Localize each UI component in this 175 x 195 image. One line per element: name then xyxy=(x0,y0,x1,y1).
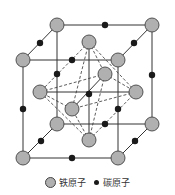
fcc-iron-carbon-unit-cell xyxy=(0,0,175,175)
carbon-atom-bottom-back-edge xyxy=(102,121,108,127)
carbon-atom-top-back-edge xyxy=(102,22,108,28)
legend-carbon: 碳原子 xyxy=(94,176,130,189)
iron-atom-front-top-right xyxy=(111,53,125,67)
iron-atom-back-bottom-right xyxy=(145,117,159,131)
carbon-atom-bottom-right-edge xyxy=(132,138,138,144)
legend-iron: 铁原子 xyxy=(45,176,86,189)
carbon-atom-icon xyxy=(94,180,99,185)
carbon-atom-front-right-vertical xyxy=(115,106,121,112)
iron-atom-front-face-center xyxy=(65,102,79,116)
carbon-atom-front-left-vertical xyxy=(20,106,26,112)
legend-iron-label: 铁原子 xyxy=(59,176,86,189)
iron-atom-top-face-center xyxy=(82,35,96,49)
carbon-atom-bottom-front-edge xyxy=(69,155,75,161)
iron-atom-back-face-center xyxy=(98,67,112,81)
carbon-atom-top-left-edge xyxy=(37,40,43,46)
iron-atom-front-bottom-right xyxy=(111,151,125,165)
carbon-atom-bottom-left-edge xyxy=(38,138,44,144)
iron-atom-back-top-right xyxy=(145,18,159,32)
iron-atom-icon xyxy=(45,177,56,188)
carbon-atom-body-center xyxy=(86,91,92,97)
iron-atom-left-face-center xyxy=(33,85,47,99)
carbon-atom-top-right-edge xyxy=(131,40,137,46)
iron-atom-front-top-left xyxy=(16,53,30,67)
iron-atom-bottom-face-center xyxy=(82,133,96,147)
carbon-atom-back-left-vertical xyxy=(54,71,60,77)
iron-atom-back-top-left xyxy=(50,18,64,32)
legend-carbon-label: 碳原子 xyxy=(103,176,130,189)
legend: 铁原子 碳原子 xyxy=(0,174,175,190)
carbon-atom-top-front-edge xyxy=(69,57,75,63)
iron-atom-back-bottom-left xyxy=(50,117,64,131)
carbon-atom-back-right-vertical xyxy=(149,72,155,78)
iron-atom-front-bottom-left xyxy=(16,151,30,165)
iron-atom-right-face-center xyxy=(129,85,143,99)
